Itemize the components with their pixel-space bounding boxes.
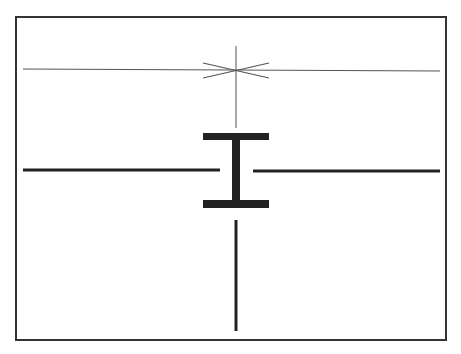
diagram-canvas xyxy=(0,0,461,354)
frame-border xyxy=(16,17,446,340)
